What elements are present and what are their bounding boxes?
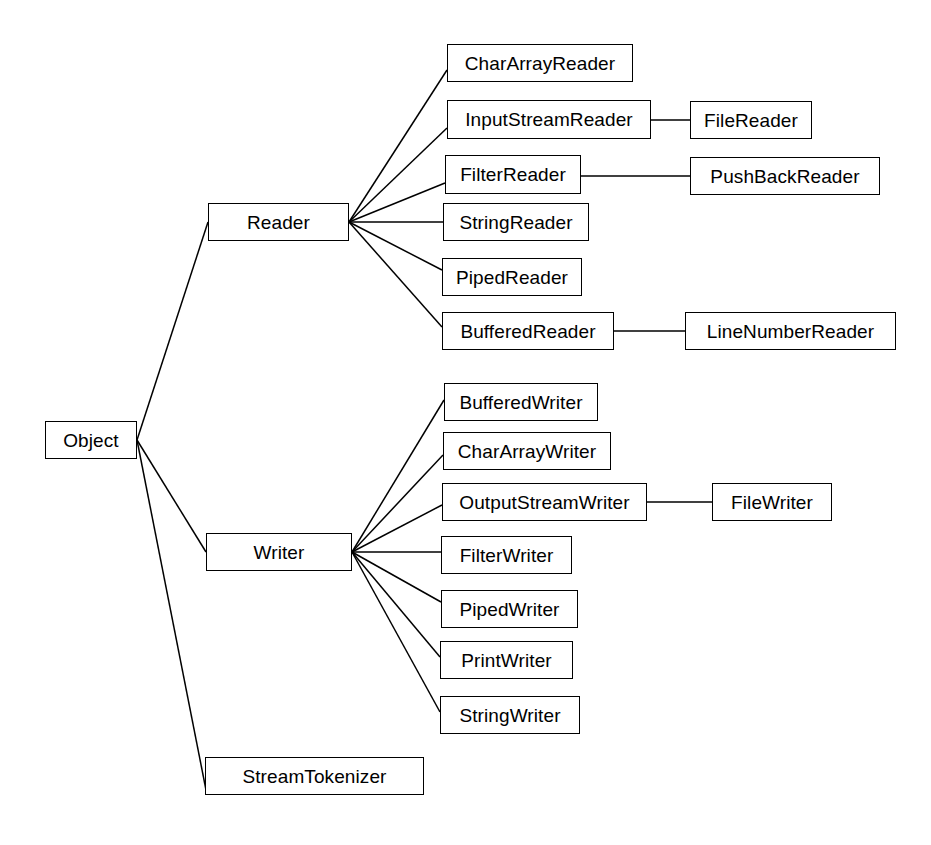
node-label-object: Object	[61, 431, 121, 450]
node-label-filewriter: FileWriter	[729, 493, 815, 512]
node-label-stringwriter: StringWriter	[457, 706, 562, 725]
node-label-chararraywriter: CharArrayWriter	[456, 442, 598, 461]
edge-writer-to-bufferedwriter	[352, 400, 444, 552]
node-object[interactable]: Object	[45, 421, 137, 459]
node-label-bufferedreader: BufferedReader	[458, 322, 597, 341]
node-label-filterreader: FilterReader	[458, 165, 568, 184]
node-filterreader[interactable]: FilterReader	[445, 155, 581, 194]
node-filterwriter[interactable]: FilterWriter	[441, 536, 572, 574]
node-label-outputstreamwriter: OutputStreamWriter	[457, 493, 631, 512]
edge-reader-to-inputstreamreader	[349, 128, 447, 222]
node-label-chararrayreader: CharArrayReader	[463, 54, 617, 73]
node-linenumberreader[interactable]: LineNumberReader	[685, 312, 896, 350]
node-bufferedwriter[interactable]: BufferedWriter	[444, 383, 598, 421]
node-label-stringreader: StringReader	[457, 213, 574, 232]
node-pushbackreader[interactable]: PushBackReader	[690, 157, 880, 195]
node-label-reader: Reader	[245, 213, 312, 232]
edge-reader-to-filterreader	[349, 183, 445, 222]
node-outputstreamwriter[interactable]: OutputStreamWriter	[442, 483, 647, 521]
node-label-filereader: FileReader	[702, 111, 800, 130]
node-label-pipedreader: PipedReader	[454, 268, 570, 287]
node-label-filterwriter: FilterWriter	[458, 546, 556, 565]
node-reader[interactable]: Reader	[208, 203, 349, 241]
node-pipedwriter[interactable]: PipedWriter	[441, 590, 578, 628]
node-streamtokenizer[interactable]: StreamTokenizer	[205, 757, 424, 795]
node-chararrayreader[interactable]: CharArrayReader	[447, 44, 633, 82]
edge-writer-to-chararraywriter	[352, 455, 443, 552]
edge-reader-to-chararrayreader	[349, 70, 447, 222]
edge-object-to-streamtokenizer	[137, 440, 206, 790]
node-filewriter[interactable]: FileWriter	[712, 483, 832, 521]
edge-reader-to-pipedreader	[349, 222, 442, 270]
edge-reader-to-bufferedreader	[349, 222, 442, 327]
node-label-printwriter: PrintWriter	[459, 651, 553, 670]
node-label-writer: Writer	[252, 543, 307, 562]
node-bufferedreader[interactable]: BufferedReader	[442, 312, 614, 350]
class-hierarchy-diagram: ObjectReaderWriterStreamTokenizerCharArr…	[0, 0, 931, 845]
node-filereader[interactable]: FileReader	[690, 101, 812, 139]
node-stringwriter[interactable]: StringWriter	[440, 696, 580, 734]
node-inputstreamreader[interactable]: InputStreamReader	[447, 100, 651, 139]
node-label-bufferedwriter: BufferedWriter	[457, 393, 584, 412]
node-chararraywriter[interactable]: CharArrayWriter	[443, 432, 611, 470]
node-label-streamtokenizer: StreamTokenizer	[240, 767, 388, 786]
node-label-inputstreamreader: InputStreamReader	[463, 110, 635, 129]
node-label-linenumberreader: LineNumberReader	[705, 322, 876, 341]
node-writer[interactable]: Writer	[206, 533, 352, 571]
edge-object-to-reader	[137, 222, 208, 440]
node-label-pushbackreader: PushBackReader	[708, 167, 861, 186]
edge-writer-to-printwriter	[352, 552, 440, 657]
node-pipedreader[interactable]: PipedReader	[442, 258, 582, 296]
node-label-pipedwriter: PipedWriter	[457, 600, 561, 619]
node-stringreader[interactable]: StringReader	[443, 203, 589, 241]
node-printwriter[interactable]: PrintWriter	[440, 641, 573, 679]
